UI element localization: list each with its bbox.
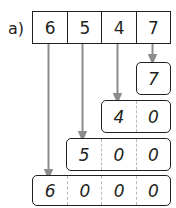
digit-cell: 7: [137, 63, 170, 94]
digit-cell: 5: [67, 139, 101, 170]
digit-cell: 4: [101, 12, 135, 43]
digit-cell: 6: [33, 176, 67, 205]
digit-cell: 0: [101, 176, 135, 205]
digit-cell: 0: [67, 176, 101, 205]
digit-cell: 6: [33, 12, 67, 43]
hundreds-row: 5 0 0: [66, 138, 171, 171]
digit-cell: 0: [136, 139, 170, 170]
arrow-thousands: [43, 42, 54, 182]
digit-cell: 0: [136, 176, 170, 205]
thousands-row: 6 0 0 0: [32, 175, 171, 206]
ones-row: 7: [136, 62, 171, 95]
digit-cell: 5: [67, 12, 101, 43]
arrow-tens: [112, 42, 123, 106]
digit-cell: 4: [102, 101, 136, 132]
digit-cell: 0: [136, 101, 170, 132]
part-label: a): [3, 17, 29, 41]
original-number-row: 6 5 4 7: [32, 11, 171, 44]
digit-cell: 7: [136, 12, 170, 43]
place-value-decomposition-figure: a) 6 5 4 7 7 4 0: [0, 0, 176, 208]
digit-cell: 0: [101, 139, 135, 170]
tens-row: 4 0: [101, 100, 171, 133]
arrow-hundreds: [77, 42, 88, 144]
